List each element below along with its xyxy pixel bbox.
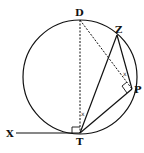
- angle-mark-p: x: [123, 70, 127, 77]
- label-z: Z: [115, 24, 122, 35]
- right-angle-mark-p: [122, 82, 127, 93]
- label-x: X: [6, 128, 14, 139]
- geometry-diagram: x x D Z P T X: [0, 0, 144, 153]
- label-d: D: [75, 7, 84, 18]
- chord-dp: [80, 20, 132, 89]
- angle-mark-t: x: [81, 110, 85, 117]
- label-p: P: [134, 84, 142, 95]
- label-t: T: [76, 136, 84, 147]
- chord-tz: [80, 35, 117, 133]
- right-angle-mark-t: [72, 127, 80, 133]
- chord-zp: [117, 35, 132, 89]
